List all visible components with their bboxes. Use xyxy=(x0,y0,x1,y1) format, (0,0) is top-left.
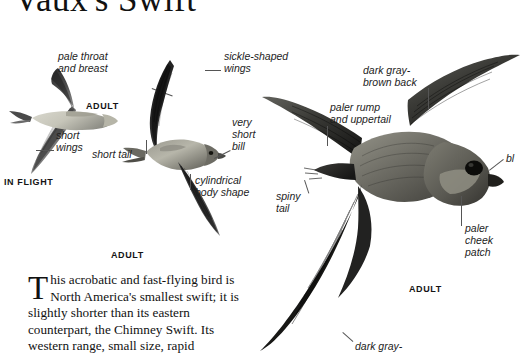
caption-right-adult: ADULT xyxy=(409,284,442,294)
leader-dark-gray-brown-back xyxy=(428,88,429,110)
leader-sickle-wings xyxy=(205,70,221,71)
leader-short-tail xyxy=(146,140,147,154)
label-pale-throat-and-breast: pale throat and breast xyxy=(58,50,108,74)
caption-middle-adult: ADULT xyxy=(111,250,144,260)
leader-short-wings xyxy=(36,150,54,151)
article-body: his acrobatic and fast-flying bird is No… xyxy=(28,272,239,353)
label-dark-gray-bottom: dark gray- xyxy=(355,340,402,352)
leader-paler-rump xyxy=(327,126,328,146)
label-spiny-tail: spiny tail xyxy=(276,190,301,214)
article-paragraph: This acrobatic and fast-flying bird is N… xyxy=(28,272,256,355)
label-paler-rump-and-uppertail: paler rump and uppertail xyxy=(330,101,391,125)
label-very-short-bill: very short bill xyxy=(232,116,255,152)
label-cylindrical-body-shape: cylindrical body shape xyxy=(195,174,249,198)
label-short-wings: short wings xyxy=(56,129,83,153)
leader-cylindrical-body xyxy=(190,174,191,190)
drop-cap: T xyxy=(28,273,50,301)
leader-paler-cheek xyxy=(461,196,462,226)
section-label-in-flight: IN FLIGHT xyxy=(4,177,53,187)
label-blackish-eye: bl xyxy=(506,152,514,164)
label-short-tail: short tail xyxy=(92,148,132,160)
page-title: Vaux's Swift xyxy=(14,0,196,20)
label-dark-gray-brown-back: dark gray- brown back xyxy=(363,64,417,88)
label-paler-cheek-patch: paler cheek patch xyxy=(465,222,516,258)
